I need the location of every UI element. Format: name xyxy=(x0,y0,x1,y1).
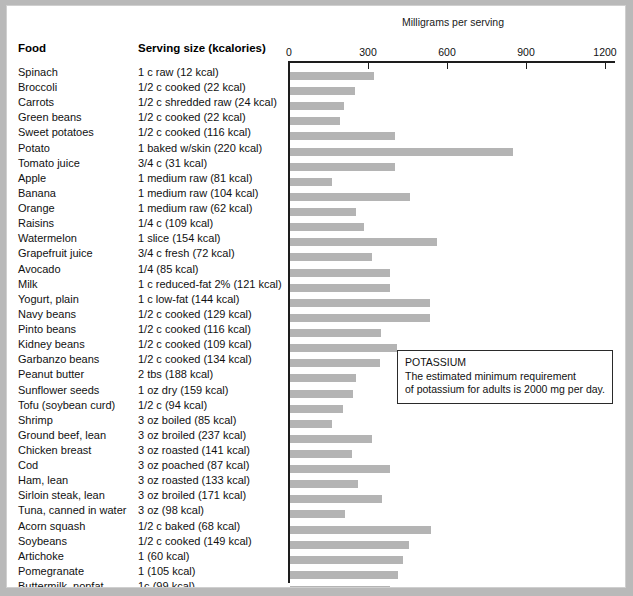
serving-size-label: 1/2 c cooked (109 kcal) xyxy=(138,338,252,350)
serving-size-label: 1 c reduced-fat 2% (121 kcal) xyxy=(138,278,282,290)
bar xyxy=(290,102,344,110)
food-name-label: Green beans xyxy=(18,111,82,123)
serving-size-label: 1 (60 kcal) xyxy=(138,550,189,562)
serving-size-label: 1/2 c cooked (22 kcal) xyxy=(138,111,246,123)
callout-line-1: The estimated minimum requirement xyxy=(405,370,605,384)
x-axis-line xyxy=(288,61,615,63)
serving-size-label: 1/2 c cooked (116 kcal) xyxy=(138,323,251,335)
column-header-serving-size: Serving size (kcalories) xyxy=(138,42,266,54)
bar xyxy=(290,465,390,473)
food-name-label: Sunflower seeds xyxy=(18,384,99,396)
bar xyxy=(290,405,343,413)
callout-title: POTASSIUM xyxy=(405,356,605,370)
serving-size-label: 3/4 c (31 kcal) xyxy=(138,157,207,169)
serving-size-label: 1 oz dry (159 kcal) xyxy=(138,384,228,396)
bar xyxy=(290,253,372,261)
food-name-label: Pomegranate xyxy=(18,565,84,577)
bar xyxy=(290,72,374,80)
x-axis-tick xyxy=(605,63,606,69)
bar xyxy=(290,435,372,443)
serving-size-label: 1/2 c baked (68 kcal) xyxy=(138,520,240,532)
x-axis-tick-label: 900 xyxy=(517,46,535,58)
bar xyxy=(290,450,352,458)
food-name-label: Peanut butter xyxy=(18,368,84,380)
food-name-label: Tofu (soybean curd) xyxy=(18,399,115,411)
bar xyxy=(290,390,353,398)
food-name-label: Sirloin steak, lean xyxy=(18,489,105,501)
food-name-label: Tomato juice xyxy=(18,157,80,169)
bar xyxy=(290,299,430,307)
bar xyxy=(290,284,390,292)
x-axis-tick xyxy=(447,63,448,69)
food-name-label: Banana xyxy=(18,187,56,199)
bar xyxy=(290,193,410,201)
x-axis-tick-label: 1200 xyxy=(593,46,616,58)
serving-size-label: 1/2 c (94 kcal) xyxy=(138,399,207,411)
serving-size-label: 3 oz roasted (133 kcal) xyxy=(138,474,250,486)
serving-size-label: 1/2 c cooked (149 kcal) xyxy=(138,535,252,547)
bar xyxy=(290,526,431,534)
bar xyxy=(290,148,513,156)
food-name-label: Grapefruit juice xyxy=(18,247,93,259)
serving-size-label: 2 tbs (188 kcal) xyxy=(138,368,213,380)
serving-size-label: 1/4 c (109 kcal) xyxy=(138,217,213,229)
serving-size-label: 1/4 (85 kcal) xyxy=(138,263,199,275)
bar xyxy=(290,480,358,488)
serving-size-label: 3 oz boiled (85 kcal) xyxy=(138,414,236,426)
serving-size-label: 1c (99 kcal) xyxy=(138,580,195,587)
x-axis-tick xyxy=(368,63,369,69)
potassium-callout-box: POTASSIUM The estimated minimum requirem… xyxy=(397,350,613,404)
serving-size-label: 1 slice (154 kcal) xyxy=(138,232,221,244)
callout-line-2: of potassium for adults is 2000 mg per d… xyxy=(405,383,605,397)
food-name-label: Shrimp xyxy=(18,414,53,426)
food-name-label: Sweet potatoes xyxy=(18,126,94,138)
serving-size-label: 1 c raw (12 kcal) xyxy=(138,66,219,78)
serving-size-label: 3 oz broiled (171 kcal) xyxy=(138,489,246,501)
bar xyxy=(290,344,397,352)
food-name-label: Spinach xyxy=(18,66,58,78)
bar xyxy=(290,556,403,564)
bar xyxy=(290,541,409,549)
serving-size-label: 1 medium raw (81 kcal) xyxy=(138,172,252,184)
food-name-label: Potato xyxy=(18,142,50,154)
bar xyxy=(290,374,356,382)
bar xyxy=(290,208,356,216)
bar xyxy=(290,359,380,367)
food-name-label: Avocado xyxy=(18,263,61,275)
food-name-label: Navy beans xyxy=(18,308,76,320)
serving-size-label: 1 medium raw (62 kcal) xyxy=(138,202,252,214)
x-axis-tick xyxy=(289,63,290,69)
food-name-label: Broccoli xyxy=(18,81,57,93)
serving-size-label: 1 (105 kcal) xyxy=(138,565,195,577)
bar xyxy=(290,87,355,95)
food-name-label: Tuna, canned in water xyxy=(18,504,126,516)
food-name-label: Artichoke xyxy=(18,550,64,562)
serving-size-label: 1 c low-fat (144 kcal) xyxy=(138,293,239,305)
food-name-label: Pinto beans xyxy=(18,323,76,335)
bar-chart: 03006009001200 xyxy=(288,36,618,581)
page-canvas: Food Serving size (kcalories) Milligrams… xyxy=(7,6,625,587)
bar xyxy=(290,314,430,322)
food-name-label: Yogurt, plain xyxy=(18,293,79,305)
bar xyxy=(290,329,381,337)
bar xyxy=(290,163,395,171)
food-name-label: Raisins xyxy=(18,217,54,229)
serving-size-label: 3 oz broiled (237 kcal) xyxy=(138,429,246,441)
x-axis-tick-label: 0 xyxy=(286,46,292,58)
food-name-label: Milk xyxy=(18,278,38,290)
food-name-label: Acorn squash xyxy=(18,520,85,532)
serving-size-label: 1/2 c cooked (22 kcal) xyxy=(138,81,246,93)
bar xyxy=(290,420,332,428)
bar xyxy=(290,495,382,503)
serving-size-label: 1/2 c cooked (129 kcal) xyxy=(138,308,252,320)
serving-size-label: 3 oz (98 kcal) xyxy=(138,504,204,516)
x-axis-tick-label: 600 xyxy=(438,46,456,58)
food-name-label: Apple xyxy=(18,172,46,184)
food-name-label: Watermelon xyxy=(18,232,77,244)
x-axis-tick xyxy=(526,63,527,69)
food-name-label: Carrots xyxy=(18,96,54,108)
serving-size-label: 1/2 c shredded raw (24 kcal) xyxy=(138,96,277,108)
bar xyxy=(290,132,395,140)
chart-axis-title: Milligrams per serving xyxy=(288,16,618,28)
bar xyxy=(290,238,437,246)
